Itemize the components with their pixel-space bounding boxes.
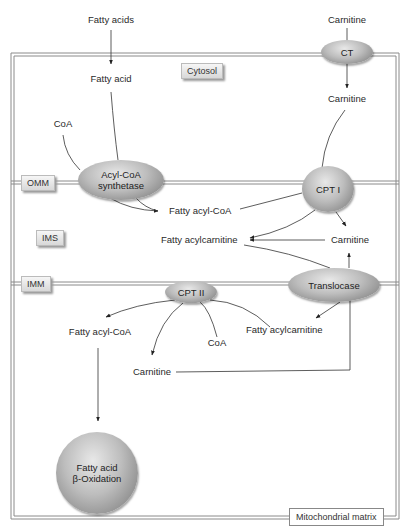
- carnitine-ims-label: Carnitine: [331, 234, 369, 245]
- coa-cytosol-label: CoA: [54, 118, 72, 129]
- acyl-coa-synthetase-enzyme: Acyl-CoA synthetase: [78, 160, 164, 200]
- carnitine-outside-label: Carnitine: [328, 14, 366, 25]
- cpt1-label: CPT I: [316, 184, 340, 195]
- omm-label: OMM: [21, 175, 55, 191]
- acyl-coa-synthetase-label-1: Acyl-CoA: [101, 169, 141, 180]
- cpt2-label: CPT II: [178, 287, 205, 298]
- fatty-acyl-coa-matrix-label: Fatty acyl-CoA: [69, 326, 131, 337]
- translocase-enzyme: Translocase: [288, 268, 380, 302]
- pathway-arrows: [63, 28, 350, 421]
- ims-label: IMS: [36, 230, 64, 246]
- matrix-label: Mitochondrial matrix: [289, 508, 384, 526]
- fatty-acylcarnitine-ims-label: Fatty acylcarnitine: [161, 234, 238, 245]
- beta-oxidation-sphere: Fatty acid β-Oxidation: [56, 432, 138, 514]
- ct-enzyme: CT: [321, 40, 373, 64]
- cytosol-label: Cytosol: [181, 63, 223, 79]
- fatty-acyl-coa-ims-label: Fatty acyl-CoA: [169, 205, 231, 216]
- beta-oxidation-label-2: β-Oxidation: [73, 473, 122, 484]
- fatty-acid-cytosol-label: Fatty acid: [90, 73, 131, 84]
- fatty-acylcarnitine-matrix-label: Fatty acylcarnitine: [246, 324, 323, 335]
- carnitine-matrix-label: Carnitine: [133, 366, 171, 377]
- fatty-acids-outside-label: Fatty acids: [88, 14, 134, 25]
- ct-label: CT: [341, 47, 354, 58]
- coa-matrix-label: CoA: [208, 337, 226, 348]
- cpt2-enzyme: CPT II: [165, 281, 217, 303]
- imm-label: IMM: [21, 276, 51, 292]
- cpt1-enzyme: CPT I: [302, 166, 354, 212]
- acyl-coa-synthetase-label-2: synthetase: [98, 180, 144, 191]
- carnitine-cytosol-label: Carnitine: [328, 93, 366, 104]
- beta-oxidation-label-1: Fatty acid: [76, 462, 117, 473]
- translocase-label: Translocase: [308, 280, 359, 291]
